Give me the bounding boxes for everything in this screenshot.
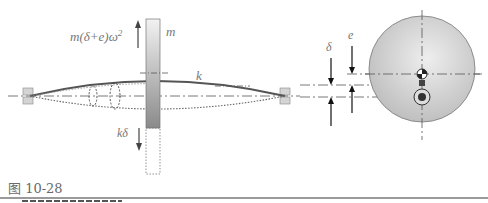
eccentricity-label: e <box>348 28 353 43</box>
mass-disk-ghost <box>146 128 160 174</box>
center-of-mass-icon <box>417 69 427 79</box>
spring-force-label: kδ <box>117 126 128 141</box>
mass-label: m <box>166 24 175 40</box>
stiffness-label: k <box>196 68 202 84</box>
deflection-label: δ <box>326 40 332 55</box>
cropped-text-line <box>22 199 122 203</box>
rotor-diagram: m(δ+e)ω2 m k kδ δ e 图 10-28 <box>0 0 488 203</box>
centrifugal-force-base: m(δ+e)ω <box>70 29 118 44</box>
mass-disk <box>146 19 160 128</box>
shaft-center-icon <box>414 89 430 105</box>
figure-caption: 图 10-28 <box>8 178 63 197</box>
centrifugal-force-exponent: 2 <box>118 28 123 38</box>
centrifugal-force-label: m(δ+e)ω2 <box>70 28 122 45</box>
